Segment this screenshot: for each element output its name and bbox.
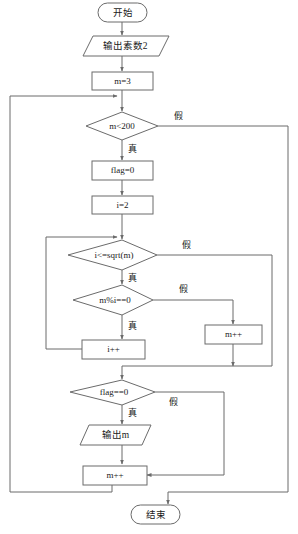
edge-label-flag-false: 假 xyxy=(169,397,178,407)
node-output-m-label: 输出m xyxy=(102,429,130,440)
node-inc-m-inner[interactable]: m++ xyxy=(205,325,262,344)
node-cond-mod[interactable]: m%i==0 xyxy=(73,285,153,315)
edge-condsqrt-false xyxy=(157,255,272,366)
node-cond-flag-label: flag==0 xyxy=(100,387,129,397)
edge-cond200-false xyxy=(158,126,288,504)
node-init-m[interactable]: m=3 xyxy=(92,72,153,90)
node-output-prime-2-label: 输出素数2 xyxy=(103,40,148,51)
edge-label-mod-true: 真 xyxy=(128,320,137,331)
node-inc-m-outer-label: m++ xyxy=(106,470,123,480)
connector-layer xyxy=(10,22,288,504)
edge-condflag-false xyxy=(147,392,224,475)
node-cond-i-le-sqrt-label: i<=sqrt(m) xyxy=(94,250,133,260)
node-flag-zero-label: flag=0 xyxy=(111,165,135,175)
node-flag-zero[interactable]: flag=0 xyxy=(92,161,153,180)
edge-label-i-le-sqrt-false: 假 xyxy=(182,240,191,250)
flowchart-svg: 开始 输出素数2 m=3 m<200 flag=0 xyxy=(0,0,298,534)
node-output-prime-2[interactable]: 输出素数2 xyxy=(83,36,169,56)
node-start-label: 开始 xyxy=(113,7,133,18)
node-init-i-label: i=2 xyxy=(116,200,128,210)
node-init-m-label: m=3 xyxy=(114,76,131,86)
node-cond-flag[interactable]: flag==0 xyxy=(70,380,155,405)
node-layer: 开始 输出素数2 m=3 m<200 flag=0 xyxy=(68,3,262,524)
node-inc-i-label: i++ xyxy=(107,344,120,354)
node-start[interactable]: 开始 xyxy=(98,3,147,22)
edge-label-m-lt-200-true: 真 xyxy=(128,143,137,154)
node-inc-i[interactable]: i++ xyxy=(82,340,145,359)
edge-label-m-lt-200-false: 假 xyxy=(174,111,183,121)
edge-label-mod-false: 假 xyxy=(179,284,188,294)
node-inc-m-outer[interactable]: m++ xyxy=(83,466,147,485)
node-end-label: 结束 xyxy=(146,509,166,520)
edge-label-i-le-sqrt-true: 真 xyxy=(128,272,137,283)
node-init-i[interactable]: i=2 xyxy=(92,196,153,214)
node-cond-mod-label: m%i==0 xyxy=(99,295,131,305)
edge-label-flag-true: 真 xyxy=(128,407,137,418)
node-output-m[interactable]: 输出m xyxy=(80,425,151,445)
flowchart-canvas: 开始 输出素数2 m=3 m<200 flag=0 xyxy=(0,0,298,534)
node-cond-m-lt-200-label: m<200 xyxy=(109,121,135,131)
edge-merge-to-condflag xyxy=(122,366,272,379)
edge-condmod-false xyxy=(153,300,233,324)
node-inc-m-inner-label: m++ xyxy=(225,329,242,339)
node-cond-m-lt-200[interactable]: m<200 xyxy=(86,112,158,140)
node-cond-i-le-sqrt[interactable]: i<=sqrt(m) xyxy=(68,240,157,270)
edge-label-layer: 假 真 假 真 假 真 假 真 xyxy=(128,111,191,418)
node-end[interactable]: 结束 xyxy=(131,505,180,524)
